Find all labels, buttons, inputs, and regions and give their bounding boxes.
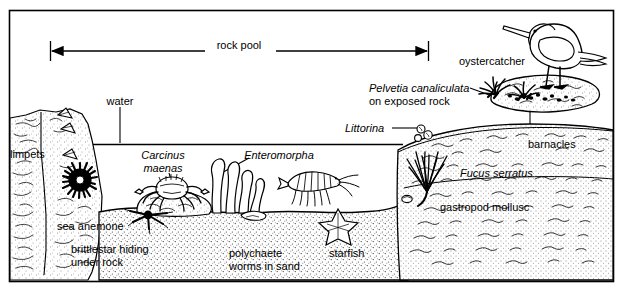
label-starfish: starfish [329,247,364,259]
label-carcinus-line1: Carcinus [128,149,198,161]
label-barnacles: barnacles [528,138,576,150]
label-pelvetia-line1: Pelvetia canaliculata [369,82,469,94]
label-oystercatcher: oystercatcher [459,55,525,67]
label-pelvetia-line2: on exposed rock [369,95,450,107]
gastropod-mollusc-figure [402,195,412,202]
label-brittlestar-line2: under rock [71,256,123,268]
diagram-canvas: rock pool water limpets sea anemone brit… [0,0,624,294]
label-enteromorpha: Enteromorpha [224,149,334,161]
label-polychaete-line2: worms in sand [229,260,300,272]
label-carcinus-line2: maenas [128,162,198,174]
label-gastropod-mollusc: gastropod mollusc [440,201,529,213]
label-littorina: Littorina [345,122,384,134]
label-sea-anemone: sea anemone [57,220,124,232]
label-limpets: limpets [10,148,45,160]
label-polychaete-line1: polychaete [229,247,282,259]
label-fucus-serratus: Fucus serratus [460,167,533,179]
upper-exposed-rock-boulder [491,75,600,112]
label-water: water [95,95,145,107]
label-rock-pool: rock pool [189,39,289,51]
label-brittlestar-line1: brittlestar hiding [71,243,149,255]
